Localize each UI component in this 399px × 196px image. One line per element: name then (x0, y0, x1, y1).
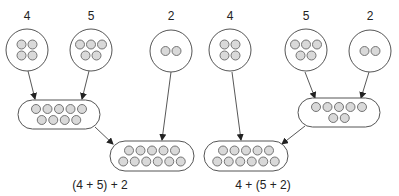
group-circle (70, 29, 112, 71)
group-circle (209, 29, 251, 71)
left-arrow-2-to-result (162, 72, 171, 140)
counter-dot (32, 105, 41, 114)
right-group-4 (209, 29, 251, 71)
counter-dot (302, 40, 311, 49)
counter-dot (125, 146, 134, 155)
left-diagram: 4 5 2 (4 + 5) + 2 (6, 9, 194, 192)
right-arrow-4-to-result (232, 72, 241, 140)
left-group-4 (6, 29, 48, 71)
counter-dot (307, 51, 316, 60)
counter-dot (161, 47, 170, 56)
counter-dot (259, 157, 268, 166)
counter-dot (17, 51, 26, 60)
counter-dot (335, 103, 344, 112)
group-circle (349, 30, 391, 72)
associativity-diagram: 4 5 2 (4 + 5) + 2 4 5 2 4 + (5 + 2) (0, 0, 399, 196)
counter-dot (66, 105, 75, 114)
counter-dot (323, 103, 332, 112)
counter-dot (78, 105, 87, 114)
right-label-2: 2 (367, 9, 374, 23)
right-expression: 4 + (5 + 2) (235, 178, 290, 192)
counter-dot (176, 157, 185, 166)
counter-dot (148, 146, 157, 155)
counter-dot (98, 40, 107, 49)
counter-dot (231, 40, 240, 49)
counter-dot (253, 146, 262, 155)
right-group-2 (349, 30, 391, 72)
right-intermediate-sum (298, 98, 380, 127)
counter-dot (371, 47, 380, 56)
counter-dot (72, 116, 81, 125)
counter-dot (231, 51, 240, 60)
counter-dot (270, 157, 279, 166)
counter-dot (43, 105, 52, 114)
counter-dot (219, 146, 228, 155)
right-arrow-sum-to-result (282, 126, 305, 144)
right-group-5 (285, 29, 327, 71)
counter-dot (171, 146, 180, 155)
counter-dot (224, 157, 233, 166)
counter-dot (28, 40, 37, 49)
group-circle (150, 30, 192, 72)
counter-dot (153, 157, 162, 166)
counter-dot (220, 40, 229, 49)
counter-dot (247, 157, 256, 166)
right-arrow-5-to-sum (305, 72, 315, 98)
left-label-5: 5 (88, 9, 95, 23)
left-arrow-5-to-sum (82, 71, 89, 99)
left-group-2 (150, 30, 192, 72)
left-result (110, 141, 194, 171)
counter-dot (76, 40, 85, 49)
counter-dot (291, 40, 300, 49)
group-circle (285, 29, 327, 71)
counter-dot (213, 157, 222, 166)
left-arrow-4-to-sum (28, 71, 35, 99)
counter-dot (358, 103, 367, 112)
counter-dot (165, 157, 174, 166)
counter-dot (142, 157, 151, 166)
right-diagram: 4 5 2 4 + (5 + 2) (204, 9, 391, 192)
counter-dot (236, 157, 245, 166)
right-result (204, 141, 288, 171)
right-arrow-2-to-sum (361, 72, 369, 98)
counter-dot (49, 116, 58, 125)
counter-dot (55, 105, 64, 114)
counter-dot (92, 51, 101, 60)
left-label-2: 2 (168, 9, 175, 23)
left-label-4: 4 (24, 9, 31, 23)
group-circle (6, 29, 48, 71)
counter-dot (60, 116, 69, 125)
counter-dot (87, 40, 96, 49)
counter-dot (313, 40, 322, 49)
counter-dot (28, 51, 37, 60)
counter-dot (242, 146, 251, 155)
left-arrow-sum-to-result (95, 127, 113, 144)
counter-dot (136, 146, 145, 155)
counter-dot (346, 103, 355, 112)
counter-dot (159, 146, 168, 155)
counter-dot (265, 146, 274, 155)
right-label-5: 5 (303, 9, 310, 23)
counter-dot (329, 114, 338, 123)
counter-dot (312, 103, 321, 112)
counter-dot (119, 157, 128, 166)
counter-dot (37, 116, 46, 125)
left-expression: (4 + 5) + 2 (72, 178, 128, 192)
counter-dot (220, 51, 229, 60)
counter-dot (296, 51, 305, 60)
group-pill (110, 141, 194, 171)
counter-dot (130, 157, 139, 166)
counter-dot (360, 47, 369, 56)
left-intermediate-sum (18, 100, 100, 129)
counter-dot (17, 40, 26, 49)
left-group-5 (70, 29, 112, 71)
counter-dot (81, 51, 90, 60)
counter-dot (172, 47, 181, 56)
counter-dot (230, 146, 239, 155)
right-label-4: 4 (227, 9, 234, 23)
counter-dot (340, 114, 349, 123)
group-pill (204, 141, 288, 171)
